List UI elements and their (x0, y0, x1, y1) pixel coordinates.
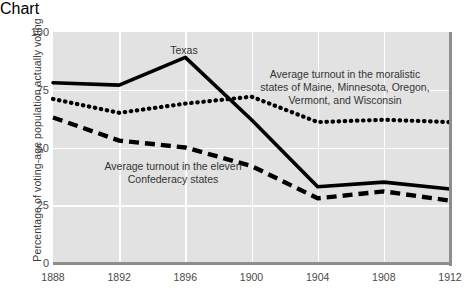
x-tick-1896: 1896 (162, 272, 208, 283)
x-tick-1912: 1912 (427, 272, 473, 283)
chart-figure: Percentage of voting-age population actu… (0, 0, 475, 296)
x-tick-1904: 1904 (295, 272, 341, 283)
x-tick-1900: 1900 (229, 272, 275, 283)
x-tick-1892: 1892 (96, 272, 142, 283)
x-tick-1888: 1888 (30, 272, 76, 283)
x-axis-tick-labels: 1888 1892 1896 1900 1904 1908 1912 (0, 0, 475, 296)
x-tick-1908: 1908 (361, 272, 407, 283)
